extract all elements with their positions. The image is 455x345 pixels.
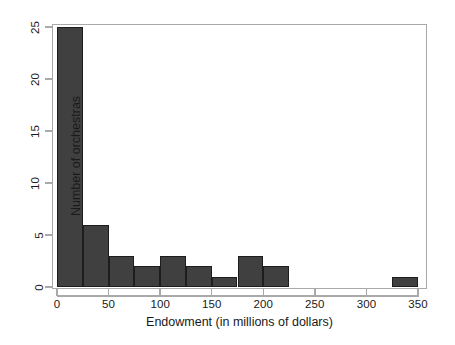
y-axis-tick-label: 0 xyxy=(0,281,42,294)
x-axis-tick-label: 200 xyxy=(243,298,283,311)
y-axis-tick-label: 10 xyxy=(0,177,42,190)
x-axis-tick xyxy=(211,289,212,296)
x-axis-tick-label: 100 xyxy=(140,298,180,311)
y-axis-tick-label-text: 10 xyxy=(29,177,42,190)
x-axis-line xyxy=(57,295,419,297)
y-axis-tick-label: 25 xyxy=(0,21,42,34)
y-axis-tick xyxy=(45,286,52,287)
x-axis-tick-label: 350 xyxy=(398,298,438,311)
x-axis-tick-label: 50 xyxy=(89,298,129,311)
x-axis-tick xyxy=(56,289,57,296)
x-axis-tick xyxy=(159,289,160,296)
x-axis-title: Endowment (in millions of dollars) xyxy=(52,315,427,329)
x-axis-tick xyxy=(263,289,264,296)
y-axis-tick xyxy=(45,130,52,131)
y-axis-tick-label: 20 xyxy=(0,73,42,86)
x-axis-tick-label: 150 xyxy=(192,298,232,311)
y-axis-tick-label-text: 5 xyxy=(32,232,45,239)
y-axis-tick xyxy=(45,78,52,79)
y-axis-tick-label-text: 25 xyxy=(29,21,42,34)
x-axis-tick-label: 0 xyxy=(37,298,77,311)
x-axis-tick xyxy=(417,289,418,296)
y-axis-tick-label: 15 xyxy=(0,125,42,138)
plot-area-frame xyxy=(52,24,427,289)
y-axis-tick-label-text: 20 xyxy=(29,73,42,86)
y-axis-tick-label-text: 15 xyxy=(29,125,42,138)
y-axis-tick xyxy=(45,26,52,27)
histogram-figure: 050100150200250300350 0510152025 Endowme… xyxy=(0,0,455,345)
x-axis-tick xyxy=(366,289,367,296)
x-axis-tick-label: 300 xyxy=(346,298,386,311)
y-axis-tick-label: 5 xyxy=(0,229,42,242)
y-axis-tick-label-text: 0 xyxy=(32,284,45,291)
x-axis-tick xyxy=(108,289,109,296)
y-axis-tick xyxy=(45,182,52,183)
y-axis-tick xyxy=(45,234,52,235)
x-axis-tick xyxy=(314,289,315,296)
x-axis-tick-label: 250 xyxy=(295,298,335,311)
y-axis-title: Number of orchestras xyxy=(69,24,83,289)
